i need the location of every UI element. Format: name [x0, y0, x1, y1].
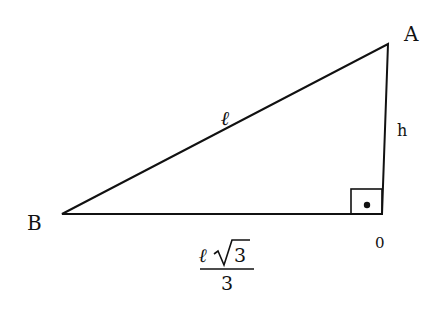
- hypotenuse-label: ℓ: [221, 106, 230, 130]
- right-angle-dot: [364, 202, 370, 208]
- base-label-fraction: ℓ 3 3: [199, 240, 254, 294]
- vertex-label-o: 0: [375, 234, 385, 252]
- base-numerator-radicand: 3: [234, 244, 246, 266]
- vertex-label-b: B: [27, 211, 42, 235]
- base-numerator-letter: ℓ: [199, 244, 207, 266]
- base-denominator: 3: [221, 272, 233, 294]
- right-angle-marker: [351, 189, 382, 214]
- height-label: h: [397, 121, 407, 140]
- triangle-diagram: A B 0 ℓ h ℓ 3 3: [0, 0, 444, 315]
- vertex-label-a: A: [403, 22, 419, 46]
